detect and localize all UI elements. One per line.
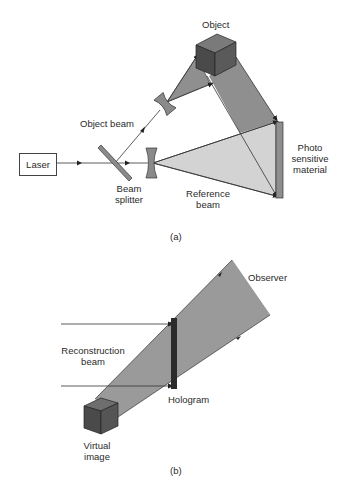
reference-beam-cone	[153, 122, 276, 196]
laser-label: Laser	[26, 159, 50, 170]
virtual-image-cube	[84, 398, 118, 434]
laser-box: Laser	[19, 153, 57, 176]
photosensitive-material-label: Photo sensitive material	[288, 142, 332, 175]
caption-b: (b)	[170, 465, 182, 476]
object-label: Object	[202, 19, 229, 30]
hologram-label: Hologram	[168, 394, 209, 405]
photosensitive-plate	[276, 122, 283, 198]
reference-beam-label: Reference beam	[185, 188, 231, 210]
hologram-plate	[171, 318, 177, 389]
caption-a: (a)	[170, 231, 182, 242]
beam-splitter-label: Beam splitter	[113, 183, 145, 205]
observer-label: Observer	[248, 272, 287, 283]
figure-a	[56, 34, 283, 198]
reconstruction-beam-label: Reconstruction beam	[58, 345, 128, 367]
holography-diagram	[0, 0, 344, 491]
virtual-image-label: Virtual image	[80, 440, 114, 462]
object-beam-label: Object beam	[80, 118, 134, 129]
